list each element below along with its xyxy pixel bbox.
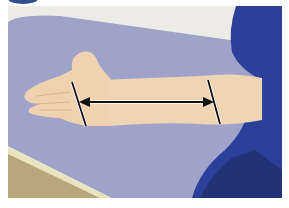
photo-canvas: [8, 6, 282, 198]
figure-tag-badge: [8, 0, 38, 4]
forearm-measurement-photo: [8, 6, 282, 198]
forearm: [100, 74, 262, 126]
